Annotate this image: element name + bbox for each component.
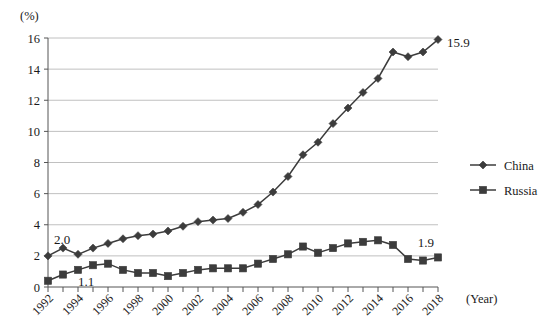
data-point-russia xyxy=(149,269,156,276)
data-point-china xyxy=(179,222,187,230)
y-axis-tick-label: 6 xyxy=(34,187,40,201)
x-axis-tick-label: 2016 xyxy=(389,291,416,318)
data-point-russia xyxy=(194,266,201,273)
data-point-china xyxy=(104,239,112,247)
x-axis-tick-label: 2014 xyxy=(359,291,386,318)
data-point-russia xyxy=(164,273,171,280)
data-point-russia xyxy=(434,254,441,261)
data-point-russia xyxy=(239,265,246,272)
line-chart: 0246810121416199219941996199820002002200… xyxy=(0,0,559,334)
data-point-russia xyxy=(74,266,81,273)
y-axis-tick-label: 10 xyxy=(28,125,41,139)
x-axis-title: (Year) xyxy=(466,292,497,306)
data-point-china xyxy=(209,216,217,224)
data-point-russia xyxy=(179,269,186,276)
x-axis-tick-label: 2000 xyxy=(149,291,176,318)
x-axis-tick-label: 2010 xyxy=(299,291,326,318)
data-point-russia xyxy=(284,251,291,258)
data-point-china xyxy=(404,53,412,61)
x-axis-tick-label: 1994 xyxy=(59,291,86,318)
x-axis-tick-label: 2008 xyxy=(269,291,296,318)
series-line-china xyxy=(48,40,438,256)
y-axis-tick-label: 14 xyxy=(28,63,41,77)
x-axis-tick-label: 2012 xyxy=(329,291,356,318)
data-point-china xyxy=(89,244,97,252)
data-point-russia xyxy=(329,244,336,251)
data-point-russia xyxy=(344,240,351,247)
data-point-russia xyxy=(209,265,216,272)
data-point-russia xyxy=(44,277,51,284)
legend-marker-china xyxy=(479,161,487,169)
data-label-china-2018: 15.9 xyxy=(447,35,470,50)
x-axis-tick-label: 1992 xyxy=(29,291,56,318)
data-point-russia xyxy=(89,262,96,269)
data-point-china xyxy=(239,208,247,216)
data-point-china xyxy=(149,230,157,238)
data-point-russia xyxy=(119,266,126,273)
data-point-russia xyxy=(374,237,381,244)
data-point-china xyxy=(74,250,82,258)
data-point-russia xyxy=(134,269,141,276)
data-point-russia xyxy=(224,265,231,272)
data-point-russia xyxy=(404,255,411,262)
x-axis-tick-label: 2002 xyxy=(179,291,206,318)
legend-label-china: China xyxy=(504,159,534,173)
x-axis-tick-label: 1998 xyxy=(119,291,146,318)
y-axis-tick-label: 8 xyxy=(34,156,40,170)
data-point-russia xyxy=(104,260,111,267)
data-point-russia xyxy=(299,243,306,250)
data-point-russia xyxy=(389,241,396,248)
x-axis-tick-label: 2006 xyxy=(239,291,266,318)
y-axis-tick-label: 4 xyxy=(34,218,41,232)
x-axis-tick-label: 2004 xyxy=(209,291,236,318)
x-axis-tick-label: 2018 xyxy=(419,291,446,318)
data-point-china xyxy=(119,235,127,243)
data-label-china-1992: 2.0 xyxy=(54,232,70,247)
data-point-russia xyxy=(314,249,321,256)
data-label-russia-1994: 1.1 xyxy=(78,274,94,289)
data-point-china xyxy=(164,227,172,235)
data-point-china xyxy=(389,48,397,56)
data-point-china xyxy=(224,215,232,223)
y-axis-tick-label: 16 xyxy=(28,32,41,46)
data-point-china xyxy=(134,232,142,240)
y-axis-tick-label: 0 xyxy=(34,281,40,295)
data-point-russia xyxy=(59,271,66,278)
data-point-china xyxy=(44,252,52,260)
data-point-russia xyxy=(254,260,261,267)
legend-label-russia: Russia xyxy=(504,184,538,198)
data-point-russia xyxy=(419,257,426,264)
legend-marker-russia xyxy=(479,186,486,193)
y-axis-unit-label: (%) xyxy=(20,9,39,23)
chart-canvas: 0246810121416199219941996199820002002200… xyxy=(0,0,559,334)
y-axis-tick-label: 2 xyxy=(34,249,40,263)
data-label-russia-2018: 1.9 xyxy=(418,235,434,250)
data-point-russia xyxy=(269,255,276,262)
x-axis-tick-label: 1996 xyxy=(89,291,116,318)
y-axis-tick-label: 12 xyxy=(28,94,41,108)
data-point-russia xyxy=(359,238,366,245)
